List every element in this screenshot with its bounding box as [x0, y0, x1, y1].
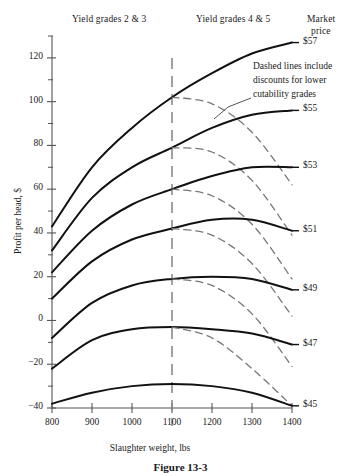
y-tick-label-120: 120: [0, 51, 43, 61]
y-axis-title: Profit per head, $: [13, 171, 23, 271]
axis-spines: [47, 36, 292, 413]
series-line-51discounted: [172, 229, 292, 317]
y-tick-label--20: −20: [0, 357, 43, 367]
x-axis-title: Slaughter weight, lbs: [0, 443, 300, 453]
series-label-price-55: $55: [303, 103, 317, 113]
series-label-price-57: $57: [303, 36, 317, 46]
y-tick-label--40: −40: [0, 401, 43, 411]
series-label-price-47: $47: [303, 338, 317, 348]
series-label-price-51: $51: [303, 224, 317, 234]
y-tick-label-0: 0: [0, 313, 43, 323]
series-label-price-45: $45: [303, 399, 317, 409]
series-layer: [52, 43, 299, 406]
series-label-price-49: $49: [303, 283, 317, 293]
figure-caption: Figure 13-3: [0, 461, 361, 473]
y-tick-label-80: 80: [0, 138, 43, 148]
x-tick-label-1400: 1400: [267, 417, 317, 427]
y-tick-label-20: 20: [0, 270, 43, 280]
y-tick-label-100: 100: [0, 95, 43, 105]
series-line-53discounted: [172, 189, 292, 279]
series-label-price-53: $53: [303, 160, 317, 170]
